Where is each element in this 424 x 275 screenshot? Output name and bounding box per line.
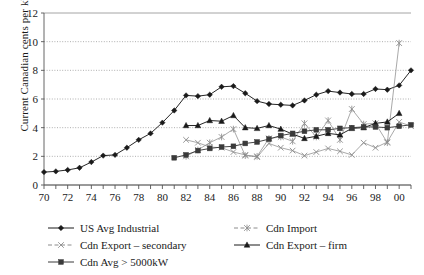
legend-swatch: [46, 255, 76, 269]
x-axis-tick-label: 74: [79, 192, 103, 203]
legend-label: Cdn Export – firm: [262, 239, 347, 251]
x-axis-tick-label: 78: [127, 192, 151, 203]
x-axis-tick-label: 96: [340, 192, 364, 203]
x-axis-tick-label: 76: [103, 192, 127, 203]
data-point-marker-cross: [290, 148, 296, 154]
legend-row: US Avg IndustrialCdn Import: [46, 219, 406, 236]
x-axis-tick-label: 72: [56, 192, 80, 203]
legend-item[interactable]: Cdn Export – secondary: [46, 238, 232, 252]
legend-swatch: [46, 221, 76, 235]
legend-item[interactable]: Cdn Import: [232, 221, 402, 235]
y-axis-tick-label: 8: [18, 65, 38, 75]
legend-label: Cdn Avg > 5000kW: [76, 256, 168, 268]
legend-label: US Avg Industrial: [76, 222, 159, 234]
data-point-marker-asterisk: [290, 138, 296, 145]
data-point-marker-diamond: [41, 169, 46, 174]
data-point-marker-cross: [195, 140, 201, 146]
data-point-marker-diamond: [89, 159, 94, 164]
legend-item[interactable]: Cdn Export – firm: [232, 238, 402, 252]
data-point-marker-diamond: [112, 152, 117, 157]
data-point-marker-triangle: [384, 119, 390, 124]
series-2: [183, 119, 414, 160]
legend-label: Cdn Import: [262, 222, 317, 234]
y-axis-tick-label: 6: [18, 94, 38, 104]
chart-figure: Current Canadian cents per kWh US Avg In…: [0, 0, 424, 275]
series-3: [183, 110, 402, 140]
data-point-marker-cross: [278, 145, 284, 151]
y-axis-tick-label: 12: [18, 8, 38, 18]
x-axis-tick-label: 90: [269, 192, 293, 203]
data-point-marker-asterisk: [325, 117, 331, 124]
data-point-marker-diamond: [136, 137, 141, 142]
data-point-marker-cross: [337, 149, 343, 155]
data-point-marker-cross: [325, 146, 331, 152]
legend-row: Cdn Avg > 5000kW: [46, 253, 406, 270]
data-point-marker-diamond: [53, 169, 58, 174]
data-point-marker-asterisk: [231, 126, 237, 133]
data-point-marker-diamond: [361, 91, 366, 96]
legend-label: Cdn Export – secondary: [76, 239, 187, 251]
data-point-marker-diamond: [266, 101, 271, 106]
data-point-marker-diamond: [124, 145, 129, 150]
data-point-marker-square: [290, 131, 295, 136]
legend-marker-square: [46, 255, 76, 269]
data-point-marker-square: [373, 125, 378, 130]
data-point-marker-asterisk: [302, 120, 308, 127]
data-point-marker-diamond: [231, 83, 236, 88]
data-point-marker-cross: [373, 145, 379, 151]
legend-marker-cross: [46, 238, 76, 252]
series-line: [44, 70, 411, 172]
data-point-marker-square: [267, 137, 272, 142]
data-point-marker-asterisk: [396, 40, 402, 47]
data-point-marker-diamond: [290, 103, 295, 108]
data-point-marker-cross: [349, 152, 355, 158]
data-point-marker-diamond: [314, 92, 319, 97]
data-point-marker-asterisk: [337, 137, 343, 144]
legend-swatch: [46, 238, 76, 252]
y-axis-tick-label: 0: [18, 180, 38, 190]
data-point-marker-triangle: [231, 112, 237, 117]
data-point-marker-square: [219, 145, 224, 150]
data-point-marker-square: [349, 125, 354, 130]
data-point-marker-cross: [313, 149, 319, 155]
data-point-marker-diamond: [195, 93, 200, 98]
data-point-marker-diamond: [325, 88, 330, 93]
data-point-marker-diamond: [65, 167, 70, 172]
y-axis-tick-label: 4: [18, 123, 38, 133]
data-point-marker-square: [59, 259, 64, 264]
data-point-marker-cross: [183, 137, 189, 143]
data-point-marker-diamond: [77, 165, 82, 170]
data-point-marker-asterisk: [349, 106, 355, 113]
x-axis-tick-label: 70: [32, 192, 56, 203]
legend-marker-asterisk: [232, 221, 262, 235]
data-point-marker-diamond: [243, 91, 248, 96]
y-axis-tick-label: 2: [18, 151, 38, 161]
legend-swatch: [232, 221, 262, 235]
data-point-marker-square: [243, 141, 248, 146]
x-axis-tick-label: 92: [292, 192, 316, 203]
x-axis-tick-label: 84: [198, 192, 222, 203]
legend-swatch: [232, 238, 262, 252]
data-point-marker-cross: [231, 149, 237, 155]
data-point-marker-diamond: [337, 90, 342, 95]
data-point-marker-square: [326, 127, 331, 132]
x-axis-tick-label: 82: [174, 192, 198, 203]
data-point-marker-square: [231, 144, 236, 149]
data-point-marker-square: [361, 125, 366, 130]
legend-row: Cdn Export – secondaryCdn Export – firm: [46, 236, 406, 253]
data-point-marker-diamond: [385, 87, 390, 92]
data-point-marker-cross: [361, 140, 367, 146]
data-point-marker-square: [255, 140, 260, 145]
x-axis-tick-label: 80: [150, 192, 174, 203]
data-point-marker-asterisk: [219, 134, 225, 141]
legend-item[interactable]: US Avg Industrial: [46, 221, 232, 235]
legend-marker-triangle: [232, 238, 262, 252]
chart-legend: US Avg IndustrialCdn ImportCdn Export – …: [46, 219, 406, 270]
legend-item[interactable]: Cdn Avg > 5000kW: [46, 255, 232, 269]
data-point-marker-diamond: [219, 84, 224, 89]
y-axis-tick-label: 10: [18, 37, 38, 47]
x-axis-tick-label: 86: [221, 192, 245, 203]
data-point-marker-triangle: [266, 122, 272, 127]
legend-marker-diamond: [46, 221, 76, 235]
data-point-marker-square: [302, 129, 307, 134]
